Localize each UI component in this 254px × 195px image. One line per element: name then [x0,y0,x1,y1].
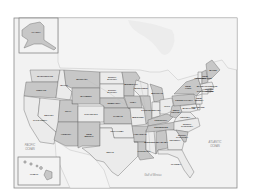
state-label-SC: CAROLINA [176,136,188,138]
state-label-NE: NEBRASKA [107,102,120,104]
state-label-CO: COLORADO [84,113,98,115]
state-label-IL: ILLINOIS [141,109,151,111]
state-label-GA: GEORGIA [170,139,181,141]
pacific-ocean-label-2: OCEAN [25,147,35,151]
hawaii-inset: HAWAII [18,157,60,185]
state-label-WV: VIRGINIA [171,111,182,113]
state-label-KY: KENTUCKY [155,119,168,121]
hawaii-island-maui[interactable] [40,167,43,170]
state-label-AZ: ARIZONA [61,133,72,135]
state-label-NV: NEVADA [44,114,54,116]
hawaii-island-kauai[interactable] [24,161,26,163]
state-label-SD: DAKOTA [107,91,117,93]
state-label-WA: WASHINGTON [37,75,53,77]
atlantic-ocean-label-1: ATLANTIC [208,140,222,144]
state-label-MD: MARYLAND [182,107,195,109]
state-label-FL: FLORIDA [171,163,182,165]
hawaii-island-molokai[interactable] [36,165,38,167]
state-label-NH: HAMPSHIRE [198,77,212,79]
state-label-OR: OREGON [36,89,47,91]
state-label-ND: DAKOTA [107,78,117,80]
state-label-NC: CAROLINA [181,125,193,127]
state-label-KS: KANSAS [113,115,123,117]
state-label-NJ: JERSEY [194,99,204,101]
state-label-TN: TENNESSEE [154,126,168,128]
hawaii-label: HAWAII [30,173,39,175]
state-label-MT: MONTANA [76,78,88,80]
atlantic-ocean-label-2: OCEAN [210,144,220,148]
state-label-WI: WISCONSIN [134,87,148,89]
state-label-PA: PENNSYLVANIA [175,99,193,101]
state-label-CA: CALIFORNIA [33,119,48,121]
state-label-UT: UTAH [65,110,72,112]
state-label-IA: IOWA [130,101,136,103]
state-label-VA: VIRGINIA [180,116,191,118]
state-label-NM: MEXICO [84,135,93,137]
state-label-MI: MICHIGAN [151,92,163,94]
state-label-TX: TEXAS [106,151,114,153]
alaska-label: ALASKA [31,31,41,33]
state-label-OK: OKLAHOMA [110,130,124,132]
state-label-MN: MINNESOTA [124,83,138,85]
state-label-ME: MAINE [209,69,217,71]
state-label-AL: ALABAMA [156,141,168,143]
pacific-ocean-label-1: PACIFIC [25,143,35,147]
state-label-MA: MASSACHUSETTS [197,85,218,87]
alaska-inset: ALASKA [19,18,58,53]
us-map: WASHINGTONOREGONCALIFORNIAIDAHONEVADAMON… [0,0,254,195]
state-label-WY: WYOMING [80,95,92,97]
state-label-CT: CONNECTICUT [197,90,214,92]
state-label-OH: OHIO [164,105,170,107]
state-label-LA: LOUISIANA [138,150,151,152]
state-label-ID: IDAHO [60,84,68,86]
hawaii-island-oahu[interactable] [30,163,32,165]
state-label-NY: YORK [185,87,192,89]
state-label-IN: INDIANA [151,109,161,111]
state-label-MO: MISSOURI [132,116,144,118]
state-label-AR: ARKANSAS [133,133,146,135]
gulf-of-mexico-label: Gulf of Mexico [144,173,162,177]
